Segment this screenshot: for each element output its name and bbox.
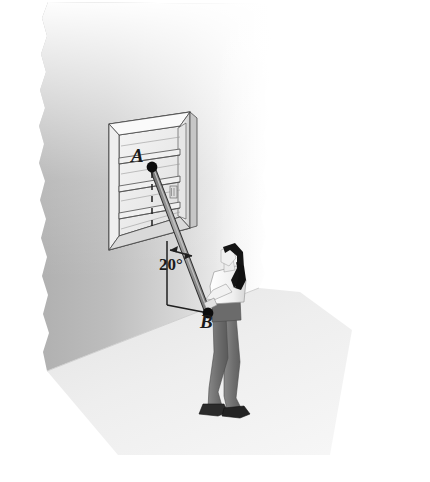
window-frame-left-bevel [109, 124, 119, 250]
figure-canvas: A B 20° [0, 0, 430, 482]
point-a-label: A [131, 146, 144, 165]
point-b-label: B [200, 312, 213, 331]
point-a-dot-icon [147, 162, 158, 173]
window-icon [109, 112, 197, 250]
angle-label: 20° [159, 256, 183, 273]
window-jamb-depth [190, 112, 197, 228]
window-latch-icon [170, 186, 177, 198]
illustration-svg [0, 0, 430, 482]
